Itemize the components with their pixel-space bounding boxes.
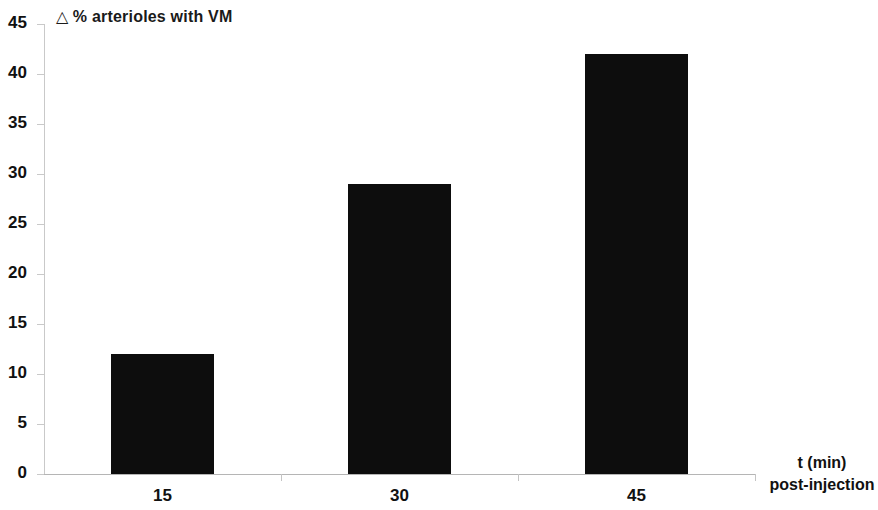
y-axis-tick-mark — [37, 174, 44, 175]
x-axis-title-line-2: post-injection — [766, 474, 878, 496]
y-axis-tick-label: 15 — [8, 313, 27, 333]
y-axis-tick-mark — [37, 224, 44, 225]
bar — [111, 354, 214, 474]
y-axis-tick-mark — [37, 74, 44, 75]
y-axis-tick-mark — [37, 374, 44, 375]
x-axis-line — [44, 474, 756, 475]
y-axis-tick-mark — [37, 274, 44, 275]
x-axis-title-line-1: t (min) — [766, 452, 878, 474]
bar — [585, 54, 688, 474]
x-axis-category-label: 30 — [360, 486, 440, 506]
y-axis-tick-label: 30 — [8, 163, 27, 183]
y-axis-tick-label: 5 — [18, 413, 27, 433]
y-axis-tick-label: 20 — [8, 263, 27, 283]
y-axis-tick-label: 40 — [8, 63, 27, 83]
x-axis-category-label: 45 — [597, 486, 677, 506]
y-axis-tick-mark — [37, 24, 44, 25]
bar-chart: △ % arterioles with VM 45403530252015105… — [0, 0, 878, 510]
y-axis-tick-label: 35 — [8, 113, 27, 133]
y-axis-tick-mark — [37, 124, 44, 125]
y-axis-tick-label: 0 — [18, 463, 27, 483]
delta-symbol: △ — [56, 8, 68, 25]
y-axis-tick-mark — [37, 424, 44, 425]
plot-area — [44, 24, 755, 474]
y-axis-tick-mark — [37, 474, 44, 475]
y-axis-tick-mark — [37, 324, 44, 325]
x-axis-divider — [281, 474, 282, 481]
x-axis-end-cap — [755, 474, 756, 481]
y-axis-tick-label: 10 — [8, 363, 27, 383]
x-axis-divider — [518, 474, 519, 481]
bar — [348, 184, 451, 474]
x-axis-category-label: 15 — [123, 486, 203, 506]
y-axis-tick-label: 45 — [8, 13, 27, 33]
x-axis-title: t (min) post-injection — [766, 452, 878, 496]
y-axis-tick-label: 25 — [8, 213, 27, 233]
chart-title-text: % arterioles with VM — [73, 8, 233, 25]
